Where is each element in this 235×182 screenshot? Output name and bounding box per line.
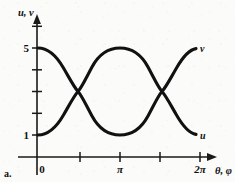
y-tick-label-1: 1 — [24, 129, 30, 141]
figure-caption: a. — [4, 168, 12, 179]
x-tick-label-2pi: 2π — [193, 163, 207, 175]
x-axis-label: θ, φ — [215, 165, 232, 176]
y-tick-label-5: 5 — [24, 42, 30, 54]
curve-u — [38, 48, 196, 135]
x-tick-label-0: 0 — [39, 163, 45, 175]
curve-label-u: u — [200, 130, 206, 141]
y-axis-label: u, v — [18, 7, 34, 18]
x-axis — [18, 153, 217, 161]
curve-label-v: v — [200, 43, 205, 54]
curve-v — [38, 48, 196, 135]
x-axis-arrowhead — [207, 153, 217, 161]
figure-panel: 5 1 0 π 2π u, v θ, φ v u a. — [0, 0, 235, 182]
y-axis — [33, 14, 41, 175]
plot-svg: 5 1 0 π 2π u, v θ, φ v u a. — [0, 0, 235, 182]
x-tick-label-pi: π — [117, 163, 124, 175]
y-axis-arrowhead — [33, 14, 41, 24]
